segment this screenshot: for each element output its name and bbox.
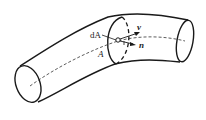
normal-arrowhead: [130, 42, 136, 46]
flow-tube-diagram: [0, 0, 206, 120]
label-A: A: [98, 50, 104, 59]
dA-leader: [102, 35, 116, 40]
tube-bottom-edge: [38, 60, 180, 102]
area-element-circle: [116, 38, 120, 42]
label-v: v: [137, 23, 141, 32]
tube-top-edge: [20, 14, 188, 66]
inlet-ellipse: [10, 62, 46, 106]
label-n: n: [139, 41, 144, 50]
label-dA: dA: [90, 31, 101, 40]
